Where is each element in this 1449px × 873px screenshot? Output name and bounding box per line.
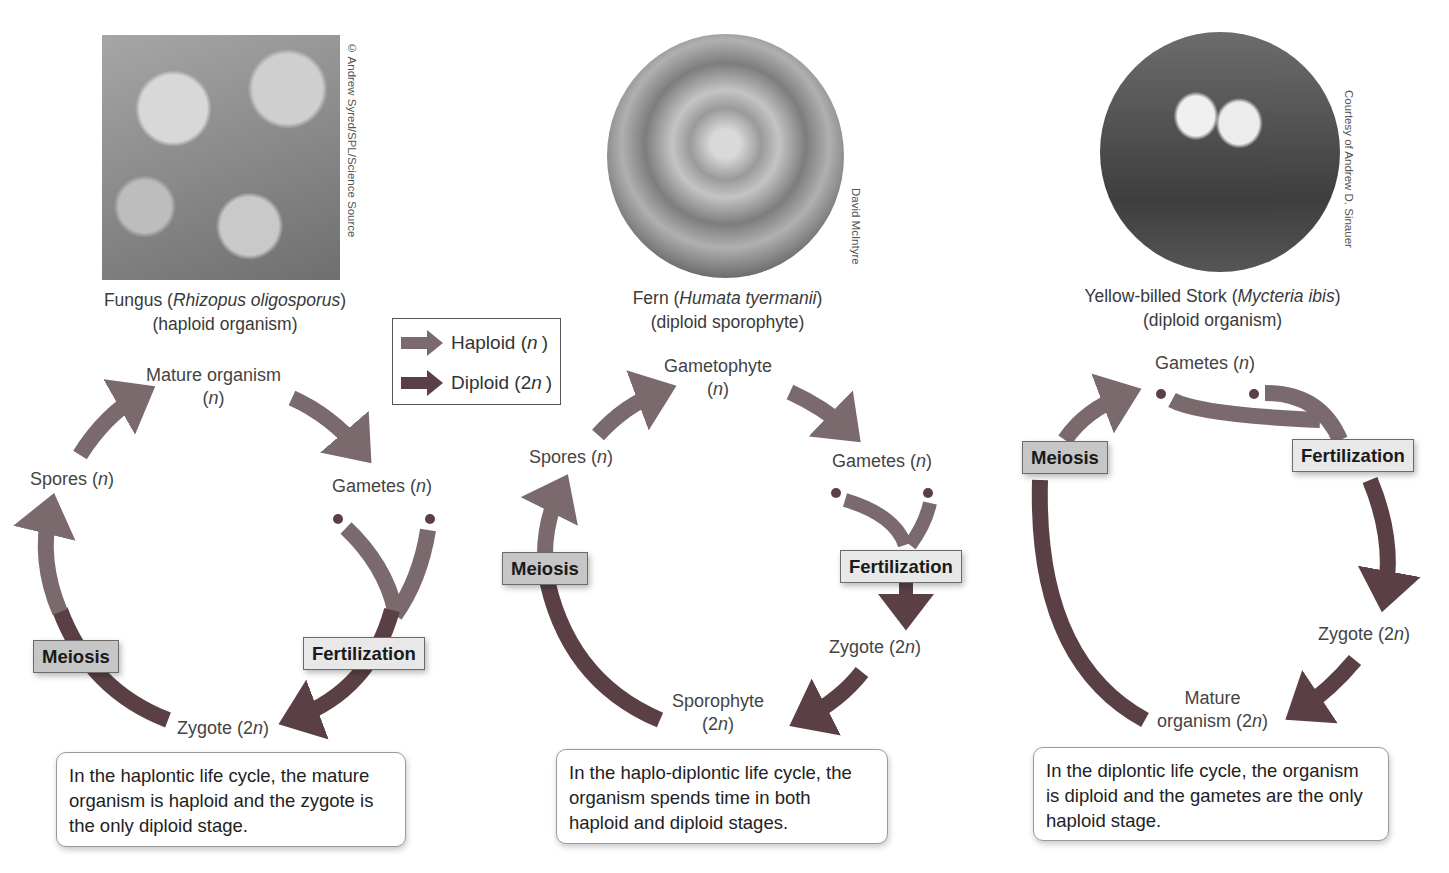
stage-spores: Spores (n)	[529, 446, 613, 469]
legend-diploid: Diploid (2n)	[401, 369, 552, 397]
arrow-sporophyte-meiosis	[545, 570, 660, 720]
fungus-photo	[102, 35, 340, 280]
arrow-gamete-b	[395, 530, 428, 615]
fern-caption: Fern (Humata tyermanii) (diploid sporoph…	[590, 286, 865, 334]
arrow-meiosis-to-spores	[545, 490, 560, 555]
stage-gametes: Gametes (n)	[1155, 352, 1255, 375]
stage-gametes: Gametes (n)	[332, 475, 432, 498]
stage-sporophyte: Sporophyte (2n)	[672, 690, 764, 736]
stork-photo	[1100, 32, 1340, 272]
haplo-diplontic-description: In the haplo-diplontic life cycle, the o…	[556, 749, 888, 844]
arrow-fertilization-to-zygote	[1370, 480, 1388, 595]
process-fertilization: Fertilization	[303, 637, 425, 670]
arrow-gamete-a	[845, 500, 905, 545]
arrow-zygote-to-sporophyte	[805, 672, 862, 718]
gamete-dot	[333, 514, 343, 524]
arrow-spores-to-gametophyte	[598, 392, 660, 435]
legend: Haploid (n) Diploid (2n)	[392, 318, 561, 405]
arrow-zygote-to-mature	[1300, 660, 1355, 710]
gamete-dot	[923, 488, 933, 498]
arrow-spores-to-mature	[80, 395, 140, 455]
process-fertilization: Fertilization	[840, 550, 962, 583]
process-fertilization: Fertilization	[1292, 439, 1414, 472]
arrow-mature-to-gametes	[292, 398, 360, 450]
process-meiosis: Meiosis	[1022, 441, 1108, 474]
stage-zygote: Zygote (2n)	[1318, 623, 1410, 646]
haploid-arrow-icon	[401, 330, 443, 356]
stage-spores: Spores (n)	[30, 468, 114, 491]
arrow-gamete-b	[910, 503, 930, 545]
gamete-dot	[425, 514, 435, 524]
arrow-meiosis-to-gametes	[1065, 395, 1125, 440]
stage-gametophyte: Gametophyte (n)	[664, 355, 772, 401]
diplontic-description: In the diplontic life cycle, the organis…	[1033, 747, 1389, 841]
process-meiosis: Meiosis	[33, 640, 119, 673]
fungus-caption: Fungus (Rhizopus oligosporus) (haploid o…	[80, 288, 370, 336]
stage-mature-organism: Mature organism (n)	[146, 364, 281, 410]
arrow-gamete-a	[346, 528, 395, 610]
arrow-meiosis-to-spores	[46, 510, 60, 612]
diploid-arrow-icon	[401, 370, 443, 396]
stage-mature-organism: Mature organism (2n)	[1157, 687, 1268, 733]
fern-photo-credit: David McIntyre	[850, 188, 862, 265]
stork-photo-credit: Courtesy of Andrew D. Sinauer	[1343, 90, 1355, 248]
arrow-gametophyte-to-gametes	[790, 392, 848, 430]
gamete-dot	[1249, 389, 1259, 399]
process-meiosis: Meiosis	[502, 552, 588, 585]
fungus-photo-credit: © Andrew Syred/SPL/Science Source	[346, 42, 358, 237]
stork-caption: Yellow-billed Stork (Mycteria ibis) (dip…	[1055, 284, 1370, 332]
gamete-dot	[1156, 389, 1166, 399]
arrow-mature-to-meiosis	[1040, 480, 1145, 720]
haplontic-description: In the haplontic life cycle, the mature …	[56, 752, 406, 847]
stage-zygote: Zygote (2n)	[177, 717, 269, 740]
stage-gametes: Gametes (n)	[832, 450, 932, 473]
stage-zygote: Zygote (2n)	[829, 636, 921, 659]
legend-haploid: Haploid (n)	[401, 329, 548, 357]
gamete-dot	[831, 488, 841, 498]
fern-photo	[607, 34, 844, 278]
